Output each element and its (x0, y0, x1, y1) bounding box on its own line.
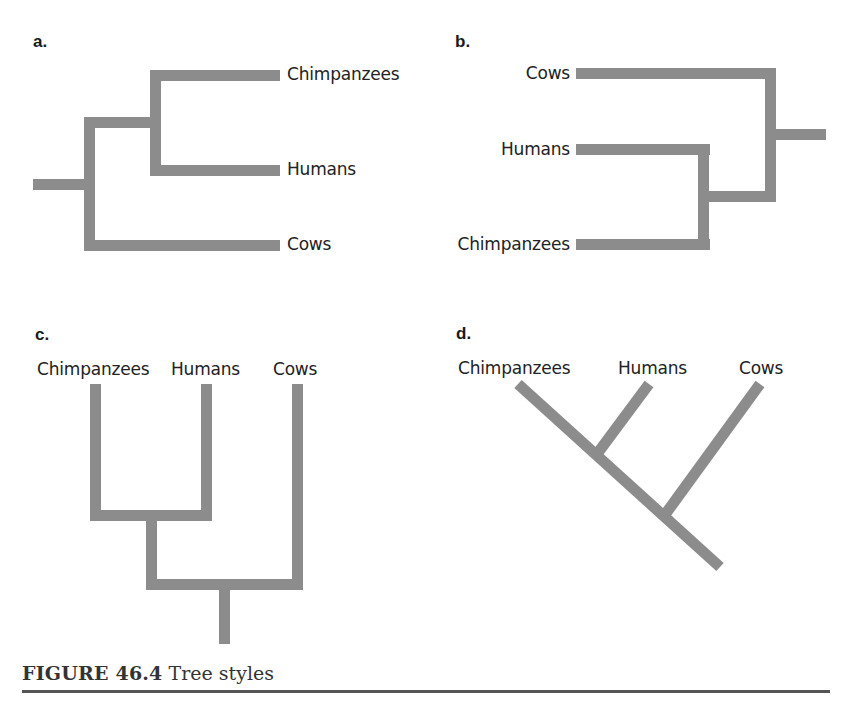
caption-rule-divider (22, 690, 830, 693)
taxon-label-chimpanzees: Chimpanzees (37, 359, 149, 379)
tree-b-branches (576, 68, 826, 250)
panel-a-label: a. (33, 32, 47, 52)
taxon-label-humans: Humans (287, 159, 356, 179)
taxon-label-cows: Cows (287, 234, 331, 254)
figure-number: FIGURE 46.4 (22, 662, 163, 684)
tree-a-branches (33, 70, 280, 251)
tree-d-branches (518, 384, 760, 567)
figure-caption: FIGURE 46.4Tree styles (22, 662, 274, 684)
panel-b-label: b. (455, 32, 470, 52)
taxon-label-cows: Cows (739, 358, 783, 378)
taxon-label-cows: Cows (273, 359, 317, 379)
taxon-label-chimpanzees: Chimpanzees (458, 358, 570, 378)
taxon-label-humans: Humans (171, 359, 240, 379)
panel-c-label: c. (35, 325, 49, 345)
panel-d-label: d. (456, 324, 471, 344)
figure-title: Tree styles (169, 662, 274, 684)
taxon-label-cows: Cows (526, 63, 570, 83)
tree-diagrams (0, 0, 857, 713)
taxon-label-humans: Humans (618, 358, 687, 378)
taxon-label-humans: Humans (501, 139, 570, 159)
tree-c-branches (90, 384, 303, 644)
taxon-label-chimpanzees: Chimpanzees (458, 234, 570, 254)
taxon-label-chimpanzees: Chimpanzees (287, 64, 399, 84)
